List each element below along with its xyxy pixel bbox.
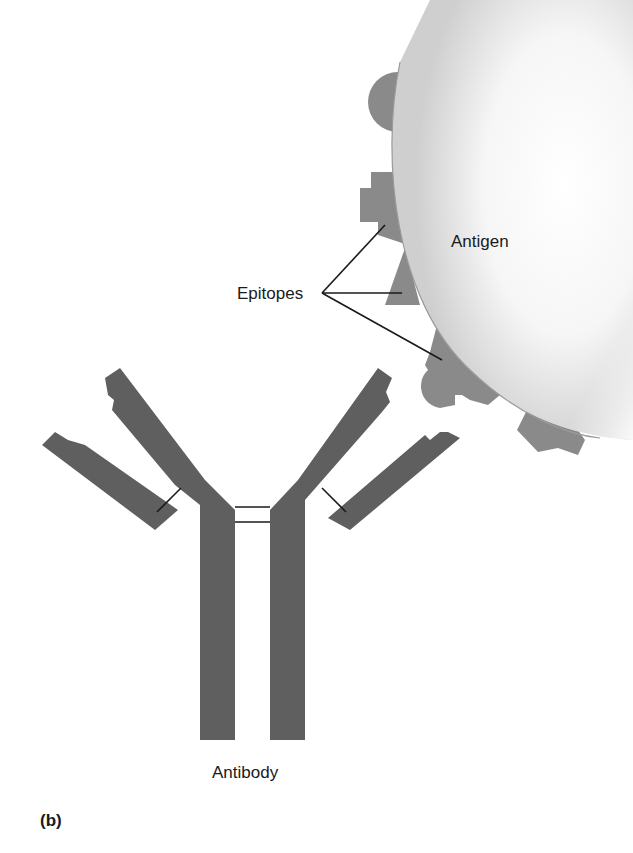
antibody-antigen-diagram: [0, 0, 633, 853]
antibody: [42, 368, 460, 740]
leader-line-upper: [322, 225, 385, 293]
antigen-label: Antigen: [451, 233, 509, 250]
antibody-left-heavy-chain: [105, 368, 235, 740]
epitopes-label: Epitopes: [237, 285, 303, 302]
right-interchain-bond: [322, 488, 346, 512]
antibody-label: Antibody: [212, 764, 278, 781]
panel-label: (b): [40, 812, 62, 829]
antibody-right-heavy-chain: [270, 368, 392, 740]
